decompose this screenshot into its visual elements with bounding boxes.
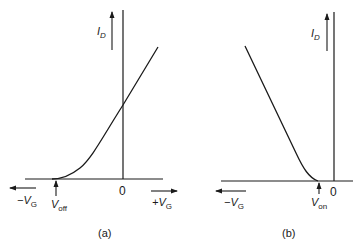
panel-b-transfer-curve: [245, 46, 318, 181]
panel-b-origin-label: 0: [330, 185, 337, 199]
panel-a-origin-label: 0: [119, 184, 126, 198]
panel-a-neg-vg-label: −VG: [17, 194, 37, 209]
panel-b-id-label: ID: [311, 27, 320, 42]
panel-a: ID Voff 0 −VG +VG (a): [10, 10, 177, 239]
panel-b-neg-vg-label: −VG: [224, 196, 244, 211]
panel-a-transfer-curve: [52, 47, 158, 179]
transfer-characteristic-diagram: ID Voff 0 −VG +VG (a) ID Von 0 −VG (b): [0, 0, 358, 248]
panel-a-voff-label: Voff: [51, 198, 68, 213]
panel-b: ID Von 0 −VG (b): [216, 12, 353, 239]
panel-a-caption: (a): [98, 227, 111, 239]
panel-a-pos-vg-label: +VG: [152, 196, 172, 211]
panel-b-von-label: Von: [311, 196, 327, 211]
panel-a-id-label: ID: [97, 25, 106, 40]
panel-b-caption: (b): [282, 227, 295, 239]
